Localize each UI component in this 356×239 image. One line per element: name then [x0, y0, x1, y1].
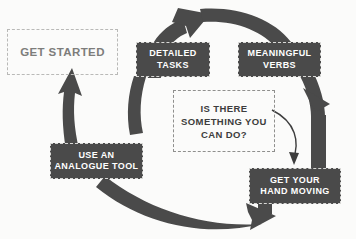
node-question-prompt[interactable]: IS THERE SOMETHING YOU CAN DO? — [173, 90, 275, 152]
node-meaningful-verbs[interactable]: MEANINGFUL VERBS — [238, 42, 321, 77]
node-hand-moving-line-1: GET YOUR — [270, 175, 320, 187]
node-detailed-tasks-line-1: DETAILED — [149, 48, 197, 60]
node-get-started-line-1: GET STARTED — [20, 46, 105, 58]
node-get-started[interactable]: GET STARTED — [7, 29, 118, 75]
diagram-canvas: GET STARTED DETAILED TASKS MEANINGFUL VE… — [0, 0, 356, 239]
node-analogue-tool-line-2: ANALOGUE TOOL — [54, 161, 138, 173]
node-question-line-2: SOMETHING YOU — [181, 115, 267, 128]
node-hand-moving-line-2: HAND MOVING — [260, 186, 329, 198]
node-get-your-hand-moving[interactable]: GET YOUR HAND MOVING — [249, 168, 341, 204]
connector-detailed-tasks-down — [128, 76, 146, 135]
arrow-question-to-hand-moving — [272, 110, 299, 165]
node-question-line-3: CAN DO? — [201, 128, 247, 141]
node-detailed-tasks-line-2: TASKS — [157, 60, 189, 72]
node-detailed-tasks[interactable]: DETAILED TASKS — [136, 42, 210, 77]
arrow-analogue-to-get-started — [58, 68, 82, 150]
node-question-line-1: IS THERE — [200, 102, 247, 115]
node-use-an-analogue-tool[interactable]: USE AN ANALOGUE TOOL — [50, 143, 143, 179]
arrow-meaningful-to-hand-moving — [300, 76, 330, 170]
node-analogue-tool-line-1: USE AN — [78, 150, 114, 162]
node-meaningful-verbs-line-1: MEANINGFUL — [248, 48, 312, 60]
node-meaningful-verbs-line-2: VERBS — [263, 60, 296, 72]
